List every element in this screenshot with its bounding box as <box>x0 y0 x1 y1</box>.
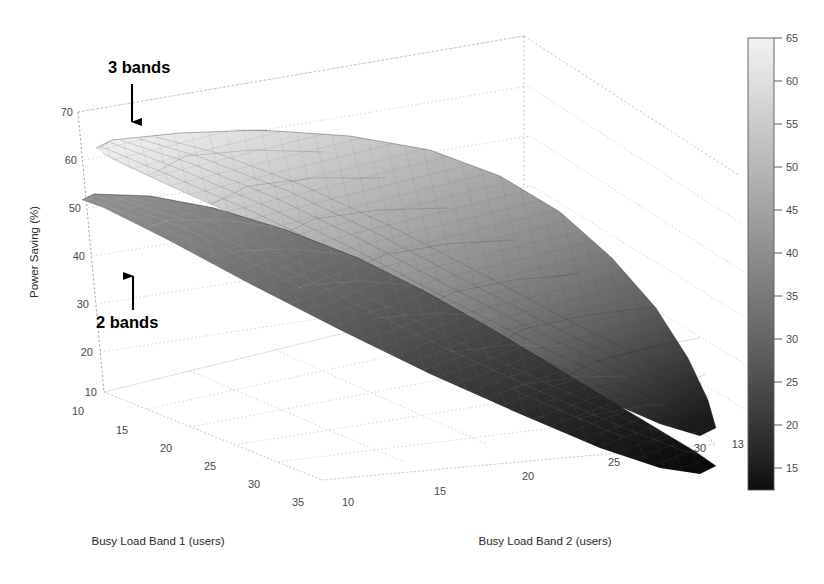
z-axis-ticks: 70 60 50 40 30 20 10 <box>61 106 97 398</box>
z-tick-70: 70 <box>61 106 73 118</box>
y-tick-30: 30 <box>694 442 706 454</box>
annotation-3-bands-label: 3 bands <box>108 58 170 76</box>
colorbar-tick-50: 50 <box>786 161 798 173</box>
y-tick-15: 15 <box>434 485 446 497</box>
colorbar-tick-60: 60 <box>786 75 798 87</box>
figure-canvas: 70 60 50 40 30 20 10 10 15 20 25 30 35 1… <box>0 0 824 584</box>
x-tick-30: 30 <box>248 478 260 490</box>
z-tick-20: 20 <box>81 346 93 358</box>
colorbar[interactable]: 65 60 55 50 45 40 35 30 25 20 15 13 <box>732 32 799 490</box>
annotation-2-bands: 2 bands <box>96 276 158 331</box>
colorbar-tick-35: 35 <box>786 290 798 302</box>
colorbar-tick-40: 40 <box>786 247 798 259</box>
x-tick-20: 20 <box>160 442 172 454</box>
z-tick-60: 60 <box>65 154 77 166</box>
y-tick-20: 20 <box>522 470 534 482</box>
y-tick-10: 10 <box>342 496 354 508</box>
colorbar-bottom-value: 13 <box>732 438 744 450</box>
colorbar-tick-45: 45 <box>786 204 798 216</box>
colorbar-tick-55: 55 <box>786 118 798 130</box>
surface-plot-svg: 70 60 50 40 30 20 10 10 15 20 25 30 35 1… <box>0 0 824 584</box>
x-tick-10: 10 <box>72 405 84 417</box>
z-tick-50: 50 <box>69 202 81 214</box>
x-tick-25: 25 <box>204 460 216 472</box>
y-axis-title: Busy Load Band 2 (users) <box>479 535 612 547</box>
colorbar-ticks: 65 60 55 50 45 40 35 30 25 20 15 <box>774 32 798 474</box>
z-axis-title: Power Saving (%) <box>28 206 40 298</box>
colorbar-tick-15: 15 <box>786 462 798 474</box>
colorbar-gradient <box>748 38 774 490</box>
z-tick-10: 10 <box>85 386 97 398</box>
z-tick-30: 30 <box>77 298 89 310</box>
x-tick-15: 15 <box>116 424 128 436</box>
x-axis-title: Busy Load Band 1 (users) <box>92 535 225 547</box>
colorbar-tick-30: 30 <box>786 333 798 345</box>
z-tick-40: 40 <box>73 250 85 262</box>
x-tick-35: 35 <box>292 496 304 508</box>
x-axis-ticks: 10 15 20 25 30 35 <box>72 405 304 508</box>
colorbar-tick-25: 25 <box>786 376 798 388</box>
annotation-3-bands: 3 bands <box>108 58 170 122</box>
colorbar-tick-20: 20 <box>786 419 798 431</box>
annotation-2-bands-label: 2 bands <box>96 313 158 331</box>
colorbar-tick-65: 65 <box>786 32 798 44</box>
y-tick-25: 25 <box>608 456 620 468</box>
